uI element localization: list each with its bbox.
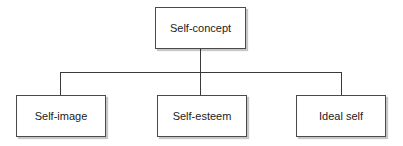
horizontal-bus-line [60, 72, 342, 73]
node-label: Ideal self [319, 110, 363, 122]
node-self-image: Self-image [16, 95, 106, 137]
left-branch-line [60, 72, 61, 95]
node-self-concept: Self-concept [155, 7, 246, 49]
right-branch-line [341, 72, 342, 95]
node-label: Self-image [35, 110, 88, 122]
node-self-esteem: Self-esteem [157, 95, 247, 137]
node-ideal-self: Ideal self [296, 95, 386, 137]
node-label: Self-concept [170, 22, 231, 34]
concept-hierarchy-diagram: Self-concept Self-image Self-esteem Idea… [0, 0, 403, 146]
node-label: Self-esteem [173, 110, 232, 122]
